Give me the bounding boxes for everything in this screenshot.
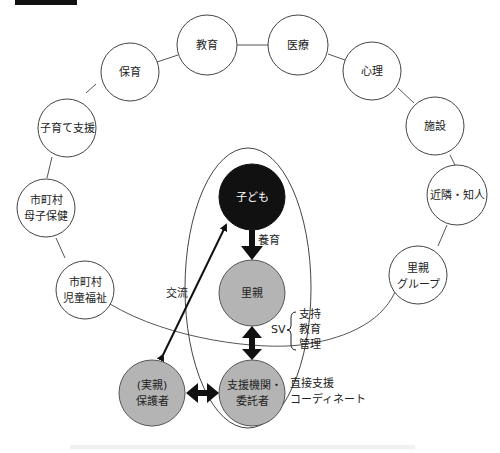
node-satooya-group (389, 246, 447, 304)
figure-tag (15, 0, 77, 5)
label-sv-support: 支持 (299, 307, 321, 321)
label-jido-1: 市町村 (69, 275, 102, 289)
sv-brace (287, 312, 296, 350)
label-satooya-group-1: 里親 (407, 262, 429, 275)
node-jido (56, 261, 114, 319)
label-foster-parent: 里親 (241, 287, 263, 300)
node-boshi (17, 179, 75, 237)
sv-double-arrow (242, 326, 262, 360)
label-satooya-group-2: グループ (397, 277, 440, 291)
label-kosodate: 子育て支援 (40, 121, 95, 135)
label-boshi-1: 市町村 (30, 193, 63, 207)
label-jido-2: 児童福祉 (63, 291, 107, 305)
label-sv-management: 管理 (299, 337, 321, 351)
label-kinrin: 近隣・知人 (430, 188, 485, 202)
label-kyoiku: 教育 (196, 38, 218, 52)
label-exchange: 交流 (166, 286, 188, 300)
label-nurture: 養育 (258, 233, 280, 247)
label-guardian-2: 保護者 (136, 394, 169, 408)
label-sv-education: 教育 (299, 322, 321, 336)
label-agency-2: 委託者 (236, 394, 269, 408)
label-iryo: 医療 (287, 38, 309, 52)
node-agency (219, 360, 285, 426)
label-shisetsu: 施設 (424, 119, 446, 133)
label-boshi-2: 母子保健 (24, 209, 68, 223)
label-guardian-1: (実親) (137, 378, 168, 392)
label-direct-support: 直接支援 (290, 376, 334, 390)
footer-caption-faded (70, 445, 415, 449)
label-hoiku: 保育 (119, 65, 141, 79)
label-agency-1: 支援機関・ (227, 378, 282, 392)
label-child: 子ども (236, 191, 269, 204)
label-shinri: 心理 (361, 65, 383, 78)
label-sv: SV (271, 323, 286, 336)
label-coordinate: コーディネート (290, 392, 366, 406)
support-network-diagram: 教育 医療 心理 施設 近隣・知人 里親 グループ 保育 子育て支援 市町村 母… (0, 0, 500, 453)
node-guardian (119, 360, 185, 426)
